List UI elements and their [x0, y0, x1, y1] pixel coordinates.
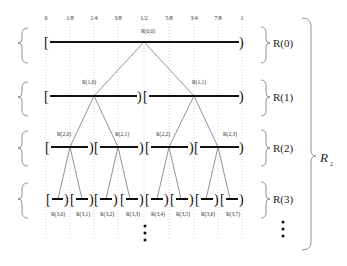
tick-label: 5/8 [165, 15, 173, 21]
dyadic-partition-diagram: 0 1/8 1/4 3/8 1/2 5/8 3/4 7/8 1 [ ) R(0,… [0, 0, 347, 266]
svg-text:[: [ [145, 140, 150, 155]
svg-text:): ) [64, 192, 69, 208]
level-1-intervals: [ ) [ ) R(1,0) R(1,1) [44, 79, 244, 105]
right-braces [261, 27, 270, 218]
node-label: R(2,0) [57, 131, 71, 138]
tick-label: 3/8 [114, 15, 122, 21]
left-braces [18, 28, 28, 218]
tick-label: 1/4 [90, 15, 98, 21]
node-label: R(2,3) [223, 131, 237, 138]
svg-text:[: [ [143, 89, 148, 104]
diagram-canvas: 0 1/8 1/4 3/8 1/2 5/8 3/4 7/8 1 [ ) R(0,… [0, 0, 347, 266]
svg-text:[: [ [170, 192, 175, 207]
level-3-intervals: [) [) [) [) [) [) [) [) R(3,0) R(3,1) R(… [46, 192, 244, 218]
level-label: R(1) [273, 91, 294, 104]
node-label: R(1,1) [192, 79, 206, 86]
tick-label: 7/8 [214, 15, 222, 21]
svg-text:[: [ [70, 192, 75, 207]
svg-text:): ) [239, 140, 244, 156]
svg-text:[: [ [120, 192, 125, 207]
group-label: R [319, 150, 328, 165]
svg-text:): ) [164, 192, 169, 208]
svg-text:): ) [214, 192, 219, 208]
group-brace [302, 18, 316, 250]
node-label: R(3,3) [126, 211, 140, 218]
svg-text:): ) [113, 192, 118, 208]
svg-text:): ) [189, 192, 194, 208]
svg-text:[: [ [145, 192, 150, 207]
interval-open-bracket: [ [44, 35, 49, 50]
node-label: R(2,2) [156, 131, 170, 138]
svg-text:): ) [137, 89, 142, 105]
svg-text:): ) [239, 192, 244, 208]
svg-text:[: [ [45, 140, 50, 155]
svg-text:[: [ [94, 140, 99, 155]
level-2-intervals: [ ) [ ) [ ) [ ) R(2,0) R(2,1) R(2,2) R(2… [45, 131, 244, 156]
svg-text:[: [ [220, 192, 225, 207]
continuation-dots [144, 221, 285, 242]
svg-text:[: [ [46, 192, 51, 207]
svg-text:[: [ [194, 140, 199, 155]
node-label: R(3,0) [51, 211, 65, 218]
level-label: R(0) [273, 37, 294, 50]
tick-label: 1 [241, 15, 244, 21]
node-label: R(3,2) [100, 211, 114, 218]
node-label: R(3,5) [176, 211, 190, 218]
tick-label: 1/2 [140, 15, 148, 21]
level-label: R(2) [273, 142, 294, 155]
level-label: R(3) [273, 193, 294, 206]
node-label: R(1,0) [82, 79, 96, 86]
grid-lines [46, 24, 242, 238]
interval-close-paren: ) [239, 35, 244, 51]
svg-text:): ) [139, 192, 144, 208]
svg-text:): ) [139, 140, 144, 156]
node-label: R(0,0) [141, 28, 155, 35]
tick-labels: 0 1/8 1/4 3/8 1/2 5/8 3/4 7/8 1 [45, 15, 244, 21]
svg-text:): ) [239, 89, 244, 105]
tick-label: 3/4 [190, 15, 198, 21]
group-subscript: 2 [330, 161, 333, 167]
tick-label: 0 [45, 15, 48, 21]
level-labels: R(0) R(1) R(2) R(3) [273, 37, 294, 206]
node-label: R(3,1) [76, 211, 90, 218]
svg-text:[: [ [195, 192, 200, 207]
node-label: R(3,4) [151, 211, 165, 218]
node-label: R(3,7) [226, 211, 240, 218]
svg-text:[: [ [44, 89, 49, 104]
svg-text:[: [ [94, 192, 99, 207]
node-label: R(2,1) [115, 131, 129, 138]
node-label: R(3,6) [201, 211, 215, 218]
tick-label: 1/8 [66, 15, 74, 21]
